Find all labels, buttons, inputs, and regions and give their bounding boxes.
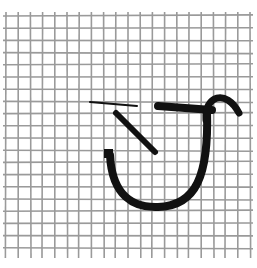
mesh-wire-horizontal	[3, 53, 253, 54]
mesh-wire-vertical	[42, 12, 43, 258]
mesh-wire-vertical	[177, 12, 178, 258]
wire-mesh-photo	[0, 0, 257, 268]
mesh-wire-vertical	[79, 12, 80, 258]
mesh-wire-horizontal	[3, 161, 253, 162]
mesh-wire-vertical	[213, 12, 214, 258]
mesh-wire-horizontal	[3, 64, 253, 65]
mesh-wire-vertical	[30, 12, 31, 258]
mesh-wire-vertical	[67, 12, 68, 258]
mesh-wire-horizontal	[3, 150, 253, 151]
mesh-wire-vertical	[104, 12, 105, 258]
mesh-wire-horizontal	[3, 210, 253, 211]
mesh-wire-vertical	[5, 12, 6, 258]
mesh-wire-vertical	[250, 12, 251, 258]
mesh-wire-vertical	[225, 12, 226, 258]
mesh-wire-horizontal	[3, 15, 253, 16]
mesh-wire-vertical	[152, 12, 153, 258]
mesh-wire-vertical	[115, 12, 116, 258]
mesh-wire-horizontal	[3, 113, 253, 114]
square-stroke-cap	[104, 149, 113, 158]
mesh-wire-vertical	[188, 12, 189, 258]
mesh-wire-horizontal	[3, 248, 253, 249]
